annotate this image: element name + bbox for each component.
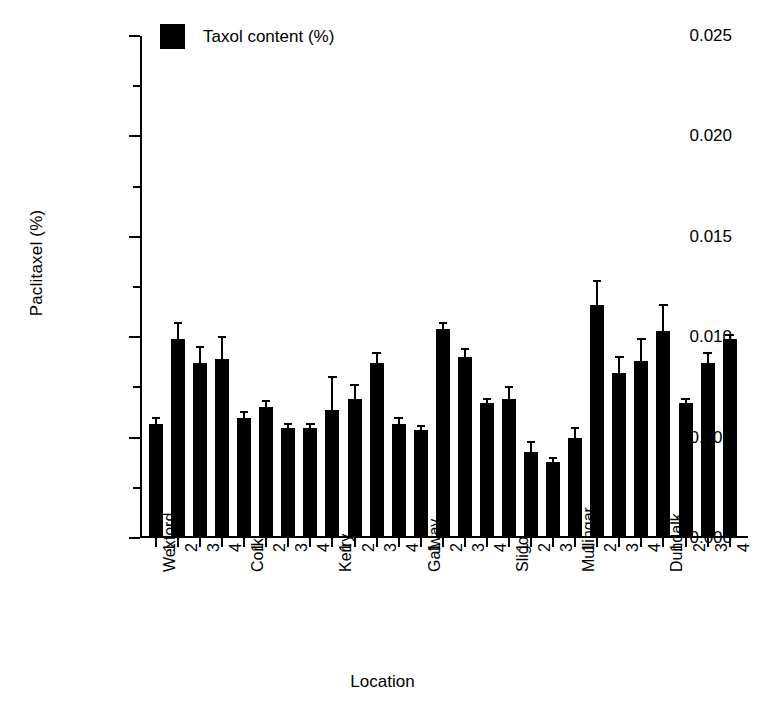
error-bar-stem <box>574 428 576 438</box>
y-tick-label: 0.025 <box>642 27 732 44</box>
error-bar-cap <box>350 384 358 386</box>
chart-figure: Paclitaxel (%) Location Taxol content (%… <box>0 0 765 720</box>
bar <box>215 359 229 538</box>
bar <box>237 418 251 538</box>
bar <box>348 399 362 538</box>
x-tick-label-location: Mullingar <box>581 507 597 572</box>
y-tick-major <box>129 236 140 238</box>
error-bar-cap <box>505 386 513 388</box>
error-bar-cap <box>615 356 623 358</box>
bar <box>634 361 648 538</box>
error-bar-cap <box>725 334 733 336</box>
x-tick-label-replicate: 4 <box>493 543 509 552</box>
error-bar-cap <box>417 425 425 427</box>
x-tick <box>155 538 157 547</box>
y-axis-line <box>140 36 142 538</box>
y-tick-major <box>129 336 140 338</box>
bar <box>325 410 339 539</box>
bar <box>590 305 604 538</box>
x-tick-label-replicate: 3 <box>559 543 575 552</box>
y-tick-major <box>129 135 140 137</box>
error-bar-cap <box>218 336 226 338</box>
bar <box>303 428 317 538</box>
x-tick-label-replicate: 3 <box>206 543 222 552</box>
error-bar-stem <box>530 442 532 452</box>
bar <box>656 331 670 538</box>
error-bar-stem <box>177 323 179 339</box>
error-bar-stem <box>376 353 378 363</box>
error-bar-cap <box>681 398 689 400</box>
error-bar-stem <box>618 357 620 373</box>
error-bar-stem <box>707 353 709 363</box>
error-bar-cap <box>174 322 182 324</box>
x-tick-label-replicate: 2 <box>537 543 553 552</box>
error-bar-cap <box>571 427 579 429</box>
y-tick-minor <box>133 386 140 388</box>
error-bar-stem <box>331 377 333 409</box>
error-bar-stem <box>662 305 664 331</box>
y-tick-minor <box>133 487 140 489</box>
x-tick-label-replicate: 2 <box>603 543 619 552</box>
bar <box>480 403 494 538</box>
error-bar-stem <box>199 347 201 363</box>
error-bar-stem <box>596 281 598 305</box>
error-bar-cap <box>394 417 402 419</box>
x-tick-label-replicate: 2 <box>449 543 465 552</box>
error-bar-cap <box>196 346 204 348</box>
bar <box>524 452 538 538</box>
x-tick-label-replicate: 4 <box>316 543 332 552</box>
x-tick-label-replicate: 3 <box>294 543 310 552</box>
x-tick-label-replicate: 3 <box>625 543 641 552</box>
bar <box>281 428 295 538</box>
x-tick-label-replicate: 3 <box>383 543 399 552</box>
y-tick-minor <box>133 85 140 87</box>
bar <box>171 339 185 538</box>
x-tick-label-location: Sligo <box>515 536 531 572</box>
x-tick-label-replicate: 4 <box>405 543 421 552</box>
y-tick-label: 0.015 <box>642 228 732 245</box>
error-bar-cap <box>240 411 248 413</box>
error-bar-cap <box>439 322 447 324</box>
x-tick-label-location: Dundalk <box>669 513 685 572</box>
bar <box>701 363 715 538</box>
x-tick-label-location: Wexford <box>162 513 178 572</box>
error-bar-cap <box>284 423 292 425</box>
y-axis-title: Paclitaxel (%) <box>27 163 47 363</box>
x-tick-label-replicate: 4 <box>647 543 663 552</box>
y-tick-minor <box>133 286 140 288</box>
error-bar-stem <box>508 387 510 399</box>
x-tick-label-replicate: 4 <box>228 543 244 552</box>
y-tick-label: 0.020 <box>642 127 732 144</box>
error-bar-cap <box>152 417 160 419</box>
bar <box>723 339 737 538</box>
error-bar-cap <box>262 400 270 402</box>
error-bar-stem <box>464 349 466 357</box>
error-bar-stem <box>354 385 356 399</box>
bar <box>392 424 406 538</box>
bar <box>193 363 207 538</box>
y-tick-minor <box>133 186 140 188</box>
x-tick-label-location: Kerry <box>338 534 354 572</box>
error-bar-cap <box>483 398 491 400</box>
error-bar-cap <box>306 423 314 425</box>
x-tick-label-replicate: 3 <box>471 543 487 552</box>
error-bar-cap <box>703 352 711 354</box>
x-tick-label-replicate: 2 <box>272 543 288 552</box>
x-axis-title: Location <box>0 672 765 692</box>
plot-area: 0.0000.0050.0100.0150.0200.025 <box>140 36 748 538</box>
x-tick-label-replicate: 2 <box>361 543 377 552</box>
x-tick-label-replicate: 4 <box>736 543 752 552</box>
error-bar-cap <box>637 338 645 340</box>
error-bar-cap <box>659 304 667 306</box>
bar <box>259 407 273 538</box>
error-bar-cap <box>593 280 601 282</box>
y-tick-major <box>129 537 140 539</box>
bar <box>502 399 516 538</box>
x-tick-label-location: Galway <box>427 519 443 572</box>
y-tick-major <box>129 35 140 37</box>
x-tick-label-replicate: 2 <box>692 543 708 552</box>
x-tick-label-replicate: 3 <box>714 543 730 552</box>
bar <box>458 357 472 538</box>
error-bar-stem <box>640 339 642 361</box>
error-bar-cap <box>328 376 336 378</box>
